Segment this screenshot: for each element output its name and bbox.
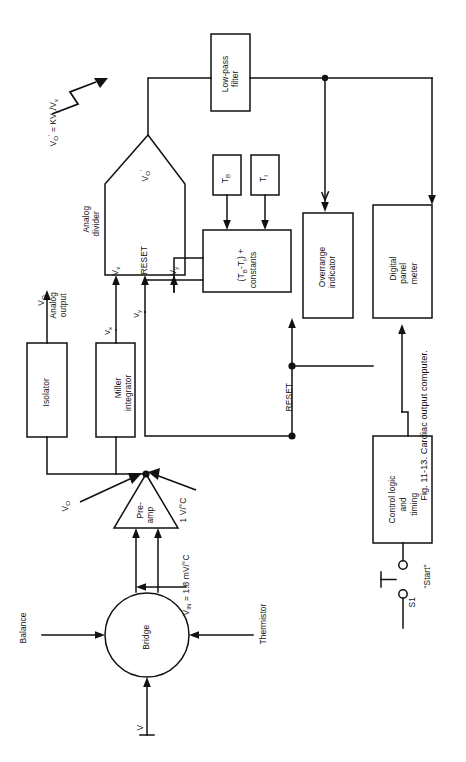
ti-label: TI: [250, 170, 280, 196]
low-pass-filter-label: Low-pass filter: [212, 41, 250, 116]
tb-label: TB: [212, 170, 242, 196]
divider-equation-pointer: [48, 62, 168, 142]
divider-output-label: VO': [130, 165, 162, 191]
bridge-label: Bridge: [133, 622, 161, 662]
overrange-indicator-label: Overrange indicator: [309, 238, 347, 306]
constants-box-label: (TB-TI) + constants: [225, 236, 269, 304]
balance-label: Balance: [10, 609, 38, 653]
switch-name-label: S1: [399, 599, 427, 617]
analog-output-label: VO Analog output: [25, 276, 79, 334]
figure-canvas: VO' = KVy/Vx Low-pass filter Analog divi…: [0, 0, 466, 762]
wire-vy-label: Vy: [125, 308, 151, 326]
reset-bus-label: RESET: [276, 377, 304, 421]
miller-integrator-label: Miller integrator: [105, 362, 143, 424]
digital-panel-meter-label: Digital panel meter: [377, 238, 430, 308]
analog-divider-label: Analog divider: [73, 190, 111, 258]
figure-caption: Fig. 11-13. Cardiac output computer.: [409, 321, 440, 511]
preamp-label: Pre- amp: [125, 496, 165, 534]
switch-start-label: “Start”: [414, 562, 442, 598]
switch-terminal-top: [399, 561, 407, 569]
thermistor-label: Thermistor: [250, 598, 278, 654]
divider-reset-port-label: RESET: [131, 240, 159, 284]
vin-sensitivity-label: VIN = 1.8 mV/°C: [173, 539, 203, 625]
switch-terminal-bottom: [399, 590, 407, 598]
wire-vx-label: Vx: [96, 325, 122, 343]
junction-dot-reset-bottom: [288, 432, 295, 439]
divider-vx-port-label: Vx: [102, 261, 132, 285]
supply-voltage-label: V: [127, 726, 155, 740]
divider-vy-port-label: Vy: [160, 261, 190, 285]
isolator-label: Isolator: [33, 374, 61, 420]
